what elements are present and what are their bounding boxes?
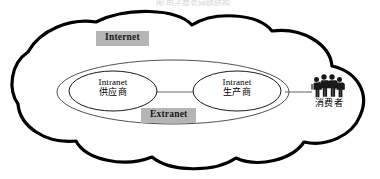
diagram-canvas [0, 0, 380, 179]
supplier-node-label-cn: 供应商 [68, 88, 158, 97]
supplier-node-label: Intranet 供应商 [68, 78, 158, 98]
producer-node-label: Intranet 生产商 [192, 78, 282, 98]
internet-label: Internet [96, 31, 149, 46]
consumer-label: 消费者 [303, 99, 355, 108]
extranet-label: Extranet [141, 108, 196, 123]
producer-node-label-cn: 生产商 [192, 88, 282, 97]
ecommerce-network-diagram: 图 电子商务网络结构 [0, 0, 380, 179]
